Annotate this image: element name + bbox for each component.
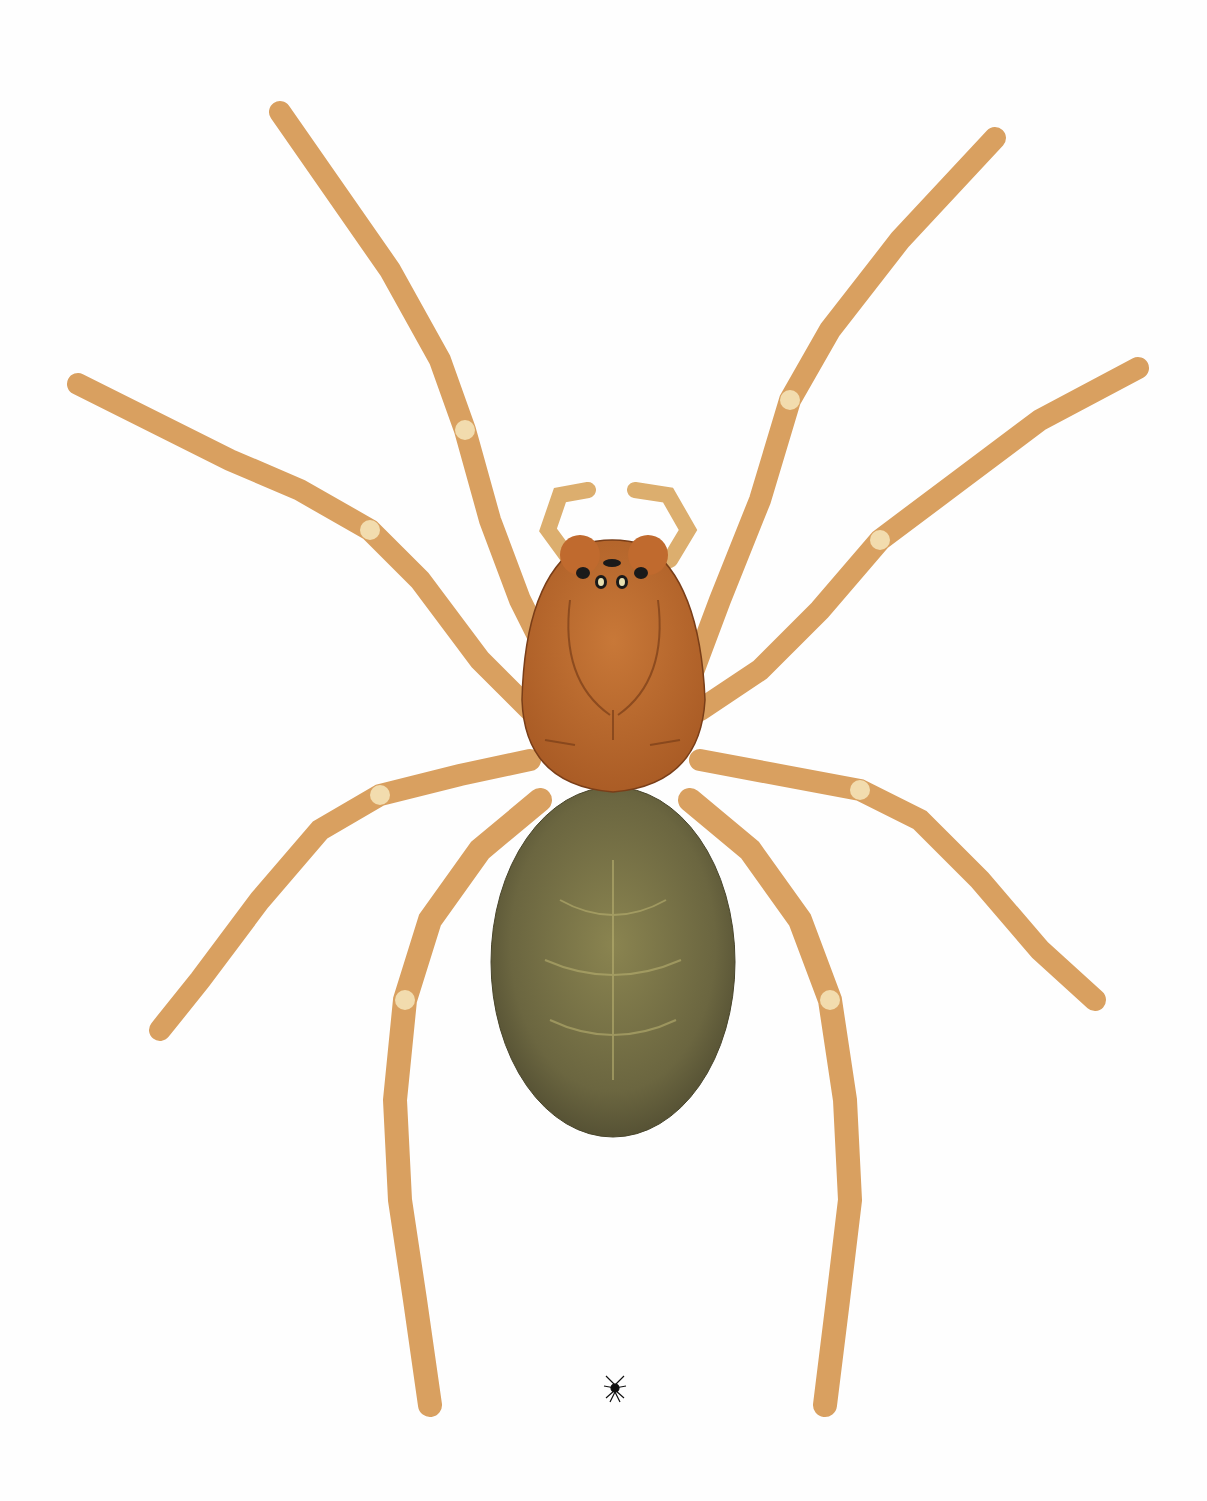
spider-illustration — [0, 0, 1207, 1501]
leg-left-3 — [160, 760, 530, 1030]
leg-right-2 — [700, 368, 1138, 710]
chelicera-right — [628, 535, 668, 575]
spider-scale-icon — [604, 1376, 626, 1402]
carapace — [522, 540, 705, 792]
spider-drawing — [0, 0, 1207, 1501]
